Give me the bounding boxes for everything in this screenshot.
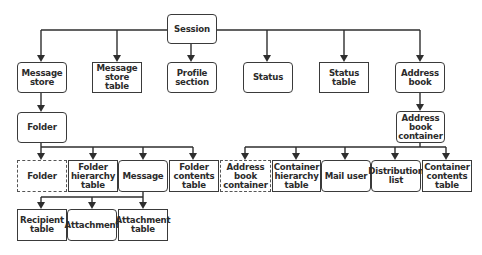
node-label: Folder hierarchy table xyxy=(71,163,115,190)
node-sub-address-book-container: Address book container xyxy=(220,160,271,192)
node-label: Attachment xyxy=(65,221,120,230)
mapi-hierarchy-diagram: Session Message store Message store tabl… xyxy=(0,0,482,255)
node-address-book: Address book xyxy=(395,62,445,93)
node-message: Message xyxy=(118,160,168,192)
node-label: Address book container xyxy=(223,163,267,190)
node-label: Recipient table xyxy=(20,216,64,234)
node-label: Mail user xyxy=(325,172,368,181)
node-label: Container hierarchy table xyxy=(274,163,320,190)
node-label: Profile section xyxy=(175,69,209,87)
node-message-store-table: Message store table xyxy=(92,62,142,93)
node-label: Status xyxy=(253,73,283,82)
node-label: Session xyxy=(174,25,210,34)
node-label: Message xyxy=(123,172,164,181)
node-profile-section: Profile section xyxy=(167,62,217,93)
node-label: Folder xyxy=(27,123,56,132)
node-address-book-container: Address book container xyxy=(396,111,445,143)
node-distribution-list: Distribution list xyxy=(371,160,421,192)
node-label: Message store xyxy=(22,69,63,87)
node-label: Status table xyxy=(321,69,367,87)
node-mail-user: Mail user xyxy=(321,160,371,192)
node-recipient-table: Recipient table xyxy=(17,209,67,241)
node-label: Message store table xyxy=(94,64,140,91)
node-label: Container contents table xyxy=(424,163,470,190)
node-session: Session xyxy=(167,14,217,44)
node-folder-hierarchy-table: Folder hierarchy table xyxy=(68,160,118,192)
node-label: Address book xyxy=(401,69,439,87)
node-label: Folder xyxy=(27,172,56,181)
node-label: Address book container xyxy=(398,114,442,141)
node-status-table: Status table xyxy=(319,62,369,93)
node-container-hierarchy-table: Container hierarchy table xyxy=(272,160,321,192)
node-folder: Folder xyxy=(17,112,67,143)
node-label: Attachment table xyxy=(116,216,171,234)
node-status: Status xyxy=(243,62,293,93)
node-label: Folder contents table xyxy=(174,163,215,190)
node-attachment-table: Attachment table xyxy=(118,209,168,241)
node-label: Distribution list xyxy=(368,167,423,185)
node-container-contents-table: Container contents table xyxy=(422,160,472,192)
node-attachment: Attachment xyxy=(67,209,117,241)
node-folder-contents-table: Folder contents table xyxy=(169,160,219,192)
node-subfolder: Folder xyxy=(17,160,67,192)
node-message-store: Message store xyxy=(17,62,67,93)
